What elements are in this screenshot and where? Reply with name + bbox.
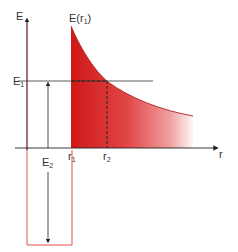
e2-label-sub: 2	[49, 162, 53, 169]
e-axis-label: E	[16, 10, 23, 22]
e1-label: E1	[13, 75, 24, 88]
r2-label-sub: 2	[107, 156, 111, 163]
energy-diagram: E r E(r1) E1 E2 r1 r2	[0, 0, 238, 252]
curve-label-main: E(r	[69, 12, 84, 24]
e2-label: E2	[42, 156, 53, 169]
curve-label-close: )	[88, 12, 92, 24]
r2-label: r2	[103, 150, 111, 163]
curve-label: E(r1)	[69, 12, 91, 25]
shaded-region	[71, 26, 193, 148]
e1-label-main: E	[13, 75, 20, 87]
e2-label-main: E	[42, 156, 49, 168]
r1-label-sub: 1	[72, 156, 76, 163]
e1-label-sub: 1	[20, 81, 24, 88]
r-axis-label: r	[219, 148, 223, 160]
potential-well	[27, 22, 72, 245]
